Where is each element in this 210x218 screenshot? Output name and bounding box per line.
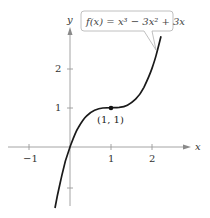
- y-tick-label: 2: [55, 63, 61, 74]
- point-marker: [109, 106, 114, 111]
- x-axis-arrow-icon: [183, 145, 191, 150]
- function-graph: x y −1 1 2 2 1 (1, 1) f(x) = x³ − 3x² + …: [0, 0, 210, 218]
- x-tick-label: 2: [149, 153, 155, 164]
- y-tick-label: 1: [55, 102, 61, 113]
- y-axis-label: y: [66, 14, 73, 25]
- y-axis-arrow-icon: [68, 27, 73, 35]
- function-callout: f(x) = x³ − 3x² + 3x: [81, 11, 185, 50]
- x-tick-label: −1: [23, 153, 38, 164]
- function-label: f(x) = x³ − 3x² + 3x: [85, 16, 185, 27]
- x-tick-label: 1: [108, 153, 114, 164]
- x-axis-label: x: [195, 141, 201, 152]
- point-label: (1, 1): [97, 114, 124, 125]
